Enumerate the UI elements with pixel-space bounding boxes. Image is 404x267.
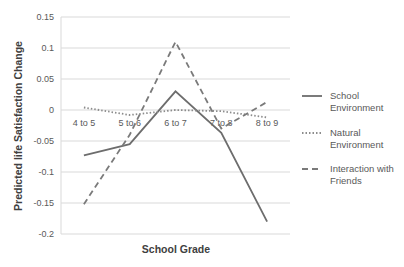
y-tick-label: -0.05 (33, 136, 54, 146)
x-axis-category-labels: 4 to 55 to 66 to 77 to 88 to 9 (73, 118, 279, 128)
legend-label: Friends (330, 175, 362, 186)
y-tick-label: -0.2 (38, 229, 54, 239)
y-axis-ticks: 0.150.10.050-0.05-0.1-0.15-0.2 (33, 12, 54, 239)
legend-item-school-environment: School Environment (302, 90, 384, 113)
legend-label: School (330, 90, 359, 101)
legend: School Environment Natural Environment I… (302, 90, 394, 186)
legend-item-interaction-with-friends: Interaction with Friends (302, 163, 394, 186)
legend-label: Environment (330, 102, 384, 113)
legend-label: Environment (330, 139, 384, 150)
legend-label: Interaction with (330, 163, 394, 174)
line-chart: 0.150.10.050-0.05-0.1-0.15-0.2 4 to 55 t… (0, 0, 404, 267)
x-category-label: 8 to 9 (256, 118, 279, 128)
x-axis-title: School Grade (142, 243, 210, 255)
y-tick-label: 0.1 (41, 43, 54, 53)
y-tick-label: 0.15 (36, 12, 54, 22)
legend-label: Natural (330, 127, 361, 138)
x-category-label: 6 to 7 (164, 118, 187, 128)
y-tick-label: -0.15 (33, 198, 54, 208)
x-category-label: 4 to 5 (73, 118, 96, 128)
series-line-natural-environment (84, 108, 267, 118)
y-tick-label: 0 (49, 105, 54, 115)
y-tick-label: -0.1 (38, 167, 54, 177)
y-tick-label: 0.05 (36, 74, 54, 84)
legend-item-natural-environment: Natural Environment (302, 127, 384, 150)
series-line-school-environment (84, 91, 267, 221)
y-axis-title: Predicted life Satisfaction Change (12, 41, 24, 211)
data-series (84, 42, 267, 222)
